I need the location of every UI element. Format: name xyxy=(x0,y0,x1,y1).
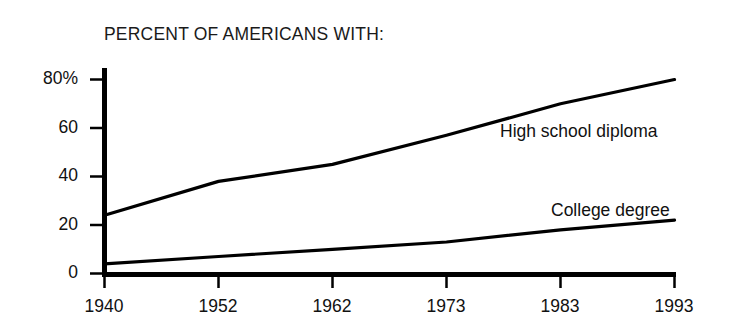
x-axis-label-1962: 1962 xyxy=(292,296,372,317)
y-axis-label-60: 60 xyxy=(8,117,78,138)
series-line-college-degree xyxy=(105,220,675,264)
series-annotation-college-degree: College degree xyxy=(551,200,670,221)
x-axis-label-1952: 1952 xyxy=(178,296,258,317)
y-axis-label-0: 0 xyxy=(8,262,78,283)
y-axis-label-20: 20 xyxy=(8,214,78,235)
x-axis-label-1983: 1983 xyxy=(520,296,600,317)
y-axis-label-40: 40 xyxy=(8,165,78,186)
series-annotation-high-school-diploma: High school diploma xyxy=(500,121,658,142)
y-axis-label-80: 80% xyxy=(8,68,78,89)
line-chart-plot xyxy=(0,0,731,336)
x-axis-label-1940: 1940 xyxy=(64,296,144,317)
chart-figure: PERCENT OF AMERICANS WITH: 80% 60 40 20 … xyxy=(0,0,731,336)
x-axis-label-1993: 1993 xyxy=(634,296,714,317)
series-line-high-school-diploma xyxy=(105,80,675,216)
x-axis-label-1973: 1973 xyxy=(406,296,486,317)
